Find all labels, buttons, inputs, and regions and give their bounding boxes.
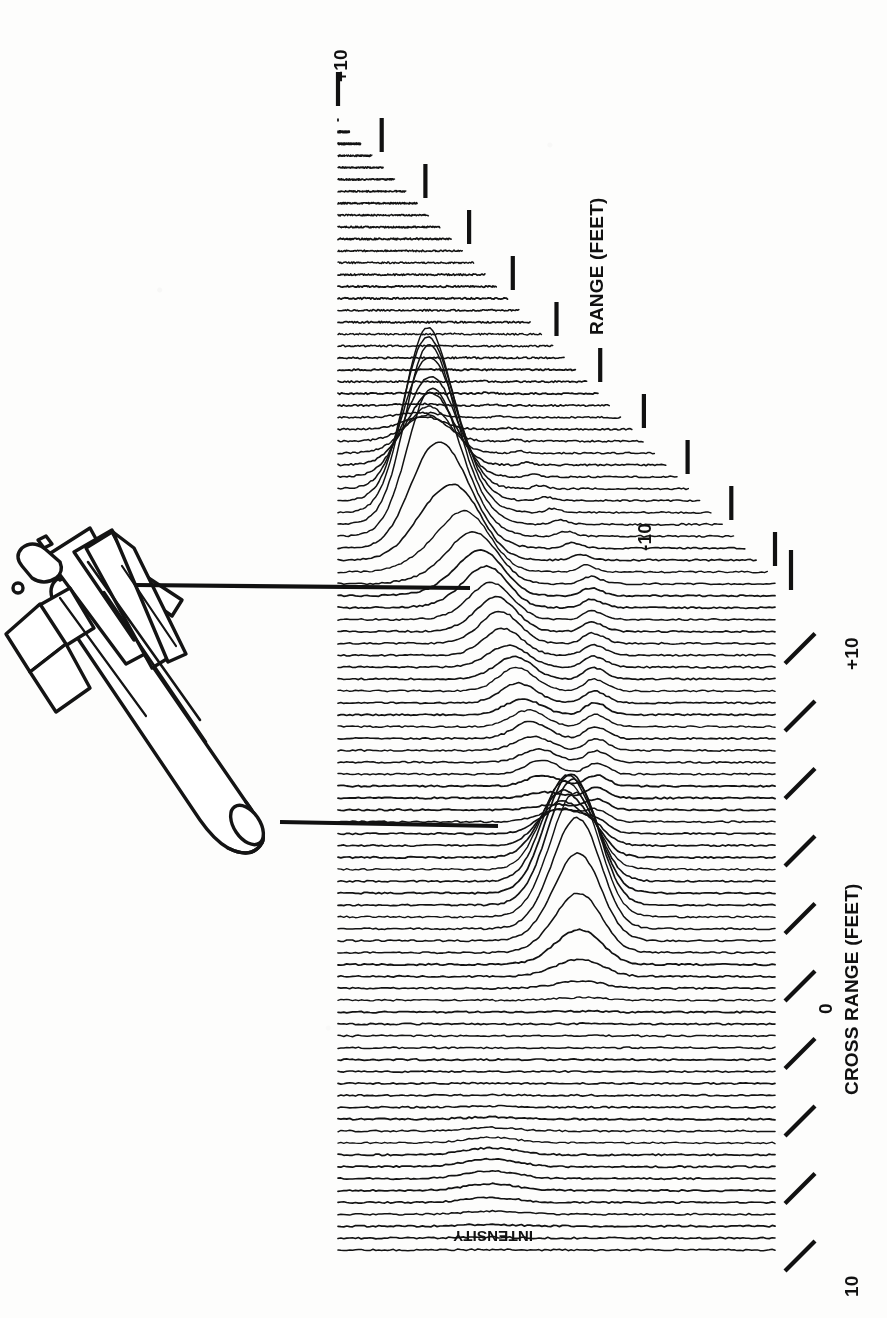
missile-outline-drawing <box>6 528 270 853</box>
cross-range-axis-title: CROSS RANGE (FEET) <box>841 883 863 1095</box>
nose-return-leader <box>280 822 498 826</box>
waterfall-trace <box>338 1116 775 1120</box>
waterfall-trace <box>338 442 745 549</box>
cross-range-axis-ticks <box>785 550 815 1271</box>
waterfall-trace <box>338 1249 775 1251</box>
waterfall-trace <box>338 191 406 193</box>
waterfall-trace <box>338 959 775 977</box>
tail-fin-return-leader <box>136 585 470 588</box>
waterfall-trace <box>338 262 474 264</box>
waterfall-trace <box>338 1094 775 1096</box>
waterfall-trace <box>338 357 564 359</box>
waterfall-trace <box>338 1137 775 1144</box>
cross-range-axis-tick <box>785 971 815 1001</box>
waterfall-trace <box>338 1059 775 1061</box>
waterfall-trace <box>338 597 775 633</box>
waterfall-trace <box>338 203 417 205</box>
waterfall-trace <box>338 683 775 704</box>
waterfall-trace <box>338 1211 775 1216</box>
cross-range-axis-tick <box>785 904 815 934</box>
cross-range-axis-tick <box>785 836 815 866</box>
waterfall-trace <box>338 1159 775 1168</box>
waterfall-trace <box>338 214 428 216</box>
waterfall-trace <box>338 1147 775 1155</box>
range-axis-ticks <box>338 72 775 566</box>
waterfall-trace <box>338 612 775 645</box>
cross-range-axis-tick <box>785 1241 815 1271</box>
waterfall-trace <box>338 250 462 252</box>
cross-range-axis-tick <box>785 769 815 799</box>
waterfall-trace <box>338 274 485 276</box>
waterfall-trace <box>338 1197 775 1203</box>
waterfall-trace <box>338 380 587 382</box>
waterfall-trace <box>338 1106 775 1109</box>
waterfall-trace <box>338 310 519 312</box>
waterfall-trace <box>338 226 440 228</box>
waterfall-trace <box>338 1035 775 1037</box>
intensity-axis-title: INTENSITY <box>398 1228 588 1245</box>
waterfall-trace <box>338 392 598 394</box>
waterfall-trace <box>338 981 775 989</box>
waterfall-trace <box>338 1023 775 1025</box>
waterfall-trace <box>338 511 767 573</box>
waterfall-trace <box>338 403 609 406</box>
cross-range-axis-tick <box>785 1039 815 1069</box>
figure-canvas <box>0 0 887 1318</box>
waterfall-trace <box>338 1071 775 1073</box>
range-axis-title: RANGE (FEET) <box>586 197 608 335</box>
waterfall-trace <box>338 143 361 145</box>
cross-range-axis-tick <box>785 1174 815 1204</box>
waterfall-trace <box>338 321 530 323</box>
waterfall-trace <box>338 155 372 157</box>
waterfall-trace <box>338 369 575 371</box>
cross-range-axis-tick <box>785 1106 815 1136</box>
waterfall-trace <box>338 345 553 347</box>
waterfall-trace <box>338 167 383 169</box>
cross-range-axis-tick <box>785 634 815 664</box>
waterfall-trace <box>338 412 621 418</box>
cross-range-axis-tick <box>785 701 815 731</box>
waterfall-trace <box>338 532 775 585</box>
waterfall-trace <box>338 131 349 133</box>
range-tick-label-plus10: +10 <box>330 49 352 82</box>
waterfall-trace <box>338 298 508 300</box>
waterfall-trace <box>338 1183 775 1191</box>
waterfall-trace <box>338 286 496 288</box>
waterfall-trace <box>338 1011 775 1013</box>
waterfall-trace <box>338 656 775 680</box>
waterfall-trace <box>338 550 775 597</box>
waterfall-trace <box>338 722 775 740</box>
range-tick-label-minus10: -10 <box>634 523 656 551</box>
waterfall-trace <box>338 1127 775 1132</box>
waterfall-trace <box>338 179 395 181</box>
waterfall-trace <box>338 1224 775 1227</box>
waterfall-trace <box>338 1083 775 1085</box>
waterfall-trace <box>338 333 541 335</box>
waterfall-trace <box>338 1047 775 1049</box>
waterfall-traces <box>338 119 775 1251</box>
cross-range-tick-label-plus10: +10 <box>841 637 863 670</box>
waterfall-trace <box>338 929 775 965</box>
waterfall-trace <box>338 238 451 240</box>
cross-range-tick-label-zero: 0 <box>815 1003 837 1014</box>
waterfall-trace <box>338 328 711 514</box>
radar-waterfall-figure <box>0 0 887 1318</box>
waterfall-trace <box>338 645 775 668</box>
cross-range-tick-label-ten: 10 <box>841 1275 863 1297</box>
waterfall-trace <box>338 893 775 953</box>
waterfall-trace <box>338 1171 775 1180</box>
waterfall-trace <box>338 997 775 1001</box>
waterfall-trace <box>338 417 632 430</box>
waterfall-trace <box>338 358 688 490</box>
